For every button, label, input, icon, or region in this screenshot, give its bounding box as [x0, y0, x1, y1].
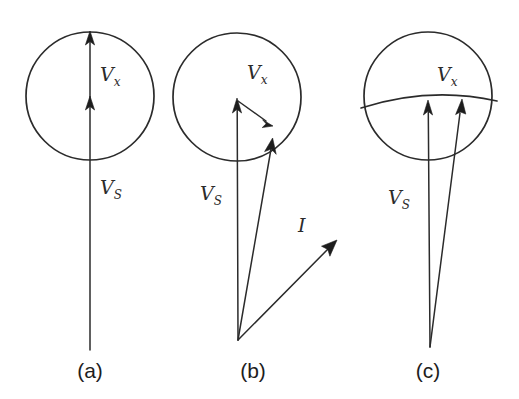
panel-c-vs-label: VS [388, 186, 410, 212]
panel-b: Vx VS I (b) [173, 33, 337, 382]
figure-container: Vx VS (a) Vx VS I (b) [0, 0, 519, 399]
panel-c-resultant-vector-shaft [430, 113, 460, 347]
vector-diagram-svg: Vx VS (a) Vx VS I (b) [0, 0, 519, 399]
panel-b-vx-connector-arrowhead [262, 120, 273, 128]
panel-a-caption: (a) [77, 359, 103, 382]
panel-c: Vx VS (c) [361, 32, 497, 382]
panel-b-vs-label: VS [200, 182, 222, 208]
panel-c-vx-label: Vx [437, 63, 458, 89]
panel-b-vx-connector-shaft [238, 101, 266, 121]
panel-c-vs-vector-shaft [428, 112, 430, 347]
panel-b-caption: (b) [240, 359, 266, 382]
panel-c-caption: (c) [416, 359, 441, 382]
panel-c-resultant-arrowhead [456, 99, 466, 115]
panel-b-i-label: I [297, 214, 306, 236]
panel-a-vx-label: Vx [100, 63, 121, 89]
panel-a: Vx VS (a) [26, 31, 154, 382]
panel-b-vs-vector-shaft [237, 108, 238, 340]
panel-b-vx-label: Vx [247, 61, 268, 87]
panel-a-vs-label: VS [100, 176, 122, 202]
